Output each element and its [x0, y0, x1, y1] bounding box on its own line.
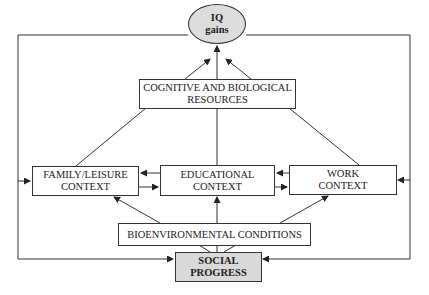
educational-context-node: EDUCATIONAL CONTEXT [160, 165, 275, 196]
work-line2: CONTEXT [319, 180, 368, 192]
educational-line2: CONTEXT [193, 181, 242, 193]
social-line1: SOCIAL [198, 255, 238, 267]
cognitive-line2: RESOURCES [187, 94, 248, 106]
bioenvironmental-label: BIOENVIRONMENTAL CONDITIONS [127, 229, 302, 241]
iq-gains-line1: IQ [211, 12, 223, 24]
iq-gains-line2: gains [205, 24, 228, 36]
family-line1: FAMILY/LEISURE [43, 169, 128, 181]
iq-gains-node: IQ gains [188, 4, 246, 44]
cognitive-biological-resources-node: COGNITIVE AND BIOLOGICAL RESOURCES [139, 79, 296, 109]
social-line2: PROGRESS [190, 267, 247, 279]
social-progress-node: SOCIAL PROGRESS [175, 252, 262, 282]
educational-line1: EDUCATIONAL [180, 169, 254, 181]
bioenvironmental-conditions-node: BIOENVIRONMENTAL CONDITIONS [118, 223, 311, 246]
work-context-node: WORK CONTEXT [289, 165, 397, 195]
cognitive-line1: COGNITIVE AND BIOLOGICAL [143, 82, 292, 94]
diagram-connectors [0, 0, 429, 295]
work-line1: WORK [327, 168, 359, 180]
family-leisure-context-node: FAMILY/LEISURE CONTEXT [32, 166, 139, 196]
family-line2: CONTEXT [61, 181, 110, 193]
